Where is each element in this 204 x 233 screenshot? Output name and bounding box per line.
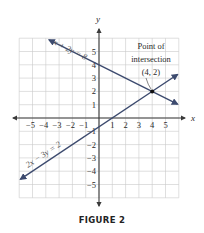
annotation-line1: Point of (137, 41, 164, 51)
line1-equation-label: x + 2y = 8 (51, 36, 89, 62)
y-tick-label: −3 (87, 153, 96, 163)
x-tick-label: 1 (110, 120, 114, 130)
y-tick-label: −5 (87, 180, 96, 190)
annotation-line3: (4, 2) (142, 67, 161, 77)
x-tick-label: 4 (150, 120, 155, 130)
y-tick-label: 1 (92, 100, 96, 110)
y-tick-label: 3 (92, 73, 96, 83)
x-tick-label: −3 (53, 120, 62, 130)
y-tick-label: −2 (87, 140, 96, 150)
x-tick-label: −4 (39, 120, 49, 130)
annotation-line2: intersection (131, 54, 171, 64)
y-tick-label: 2 (92, 86, 96, 96)
intersection-point (150, 89, 154, 93)
y-tick-label: −4 (87, 166, 97, 176)
x-tick-label: −5 (26, 120, 35, 130)
annotation-arrow (146, 78, 151, 89)
x-tick-label: 2 (123, 120, 127, 130)
x-tick-label: 3 (137, 120, 141, 130)
x-axis-label: x (190, 113, 195, 123)
x-tick-label: −2 (66, 120, 75, 130)
x-tick-label: 5 (163, 120, 167, 130)
linear-system-graph: x y −5−4−3−2−112345 54321−1−2−3−4−5 x + … (0, 0, 204, 233)
figure-caption: FIGURE 2 (0, 215, 204, 225)
y-tick-label: 5 (92, 47, 96, 57)
y-axis-label: y (95, 14, 100, 24)
